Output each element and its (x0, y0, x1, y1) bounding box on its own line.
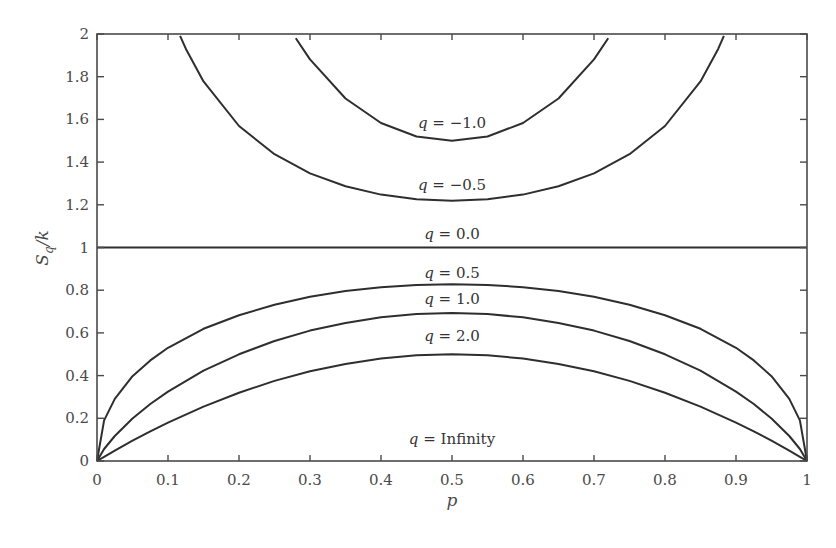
x-tick-label: 0.4 (369, 471, 393, 489)
y-tick-label: 1.2 (65, 196, 89, 214)
x-tick-label: 0.3 (298, 471, 322, 489)
y-tick-label: 0 (79, 452, 89, 470)
curve-label: q = 2.0 (424, 327, 480, 345)
y-tick-label: 0.2 (65, 409, 89, 427)
x-tick-label: 0.6 (511, 471, 535, 489)
curve-label: q = Infinity (409, 430, 496, 448)
y-tick-label: 1.6 (65, 110, 89, 128)
y-tick-label: 0.4 (65, 367, 89, 385)
curve-label: q = 0.5 (424, 264, 480, 282)
y-tick-label: 1.8 (65, 68, 89, 86)
x-axis-title: p (447, 490, 458, 510)
x-tick-label: 0.1 (156, 471, 180, 489)
x-tick-label: 0.5 (440, 471, 464, 489)
y-tick-label: 2 (79, 25, 89, 43)
x-tick-label: 0.2 (227, 471, 251, 489)
x-tick-label: 0.7 (582, 471, 606, 489)
x-tick-label: 0.9 (724, 471, 748, 489)
curve-label: q = −1.0 (418, 114, 486, 132)
curve-label: q = 1.0 (424, 290, 480, 308)
entropy-chart: 00.10.20.30.40.50.60.70.80.91 00.20.40.6… (0, 0, 836, 548)
y-axis-title: Sq/k (32, 230, 56, 265)
x-tick-label: 1 (802, 471, 812, 489)
y-tick-label: 1 (79, 239, 89, 257)
curves-layer (97, 36, 807, 461)
x-tick-labels: 00.10.20.30.40.50.60.70.80.91 (92, 471, 812, 489)
curve-labels: q = −1.0q = −0.5q = 0.0q = 0.5q = 1.0q =… (409, 114, 496, 448)
y-tick-labels: 00.20.40.60.811.21.41.61.82 (65, 25, 89, 470)
x-tick-label: 0.8 (653, 471, 677, 489)
y-tick-label: 1.4 (65, 153, 89, 171)
y-tick-label: 0.6 (65, 324, 89, 342)
y-tick-label: 0.8 (65, 281, 89, 299)
curve-label: q = 0.0 (424, 225, 480, 243)
x-tick-label: 0 (92, 471, 102, 489)
curve-label: q = −0.5 (418, 176, 486, 194)
